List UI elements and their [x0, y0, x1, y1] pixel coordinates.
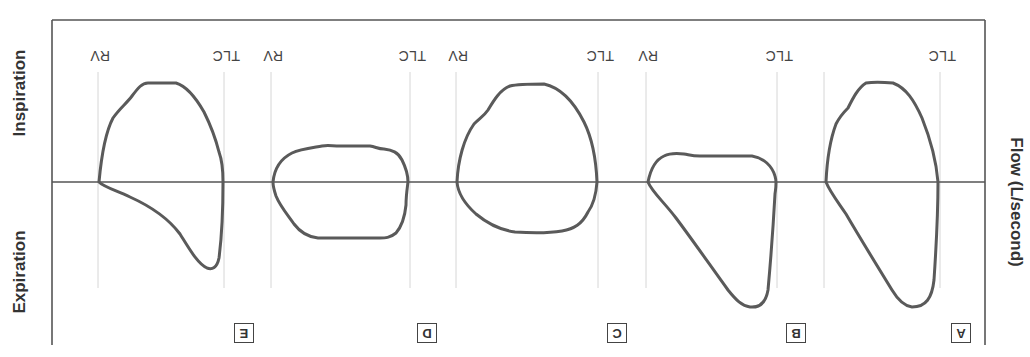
loop-a-tag: A: [951, 323, 971, 343]
loop-e-rv-label: RV: [90, 48, 110, 64]
flow-volume-plot: [0, 0, 1030, 357]
loop-c-tag: C: [607, 323, 627, 343]
loop-e-tag: E: [234, 323, 254, 343]
loop-d-tag: D: [417, 323, 437, 343]
loop-c-curve: [457, 84, 597, 233]
expiration-label: Expiration: [10, 230, 30, 313]
flow-axis-label: Flow (L/second): [1006, 137, 1026, 266]
inspiration-label: Inspiration: [10, 50, 30, 137]
loop-a-curve: [826, 82, 938, 307]
loop-e-tlc-label: TLC: [212, 48, 240, 64]
loop-b-curve: [648, 153, 776, 307]
loop-b-tlc-label: TLC: [765, 48, 793, 64]
loop-d-tlc-label: TLC: [398, 48, 426, 64]
loop-c-rv-label: RV: [448, 48, 468, 64]
loop-d-rv-label: RV: [263, 48, 283, 64]
loop-d-curve: [273, 146, 408, 238]
loop-a-tlc-label: TLC: [928, 48, 956, 64]
flow-volume-figure: Inspiration Expiration Flow (L/second) R…: [0, 0, 1030, 357]
loop-b-tag: B: [786, 323, 806, 343]
loop-c-tlc-label: TLC: [586, 48, 614, 64]
loop-b-rv-label: RV: [638, 48, 658, 64]
loop-e-curve: [99, 83, 223, 269]
